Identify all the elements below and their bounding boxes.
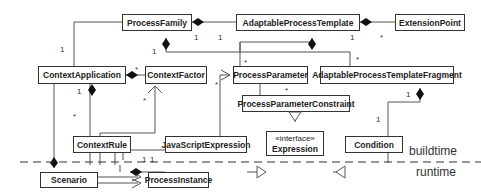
multiplicity: 1 <box>218 33 222 42</box>
class-scenario: Scenario <box>40 172 98 188</box>
multiplicity: 1 <box>150 155 154 164</box>
multiplicity: 1 <box>60 45 64 54</box>
class-process-parameter: ProcessParameter <box>233 66 308 84</box>
buildtime-label: buildtime <box>409 144 457 158</box>
multiplicity: 1 <box>406 90 410 99</box>
class-extension-point: ExtensionPoint <box>395 14 465 31</box>
class-condition: Condition <box>345 136 403 153</box>
multiplicity: * <box>73 112 76 121</box>
multiplicity: 1 <box>194 33 198 42</box>
multiplicity: 1 <box>142 155 146 164</box>
multiplicity: 1 <box>152 47 156 56</box>
class-adaptable-process-template: AdaptableProcessTemplate <box>236 14 360 31</box>
interface-expression: «interface»Expression <box>266 131 324 156</box>
multiplicity: * <box>143 96 146 105</box>
multiplicity: * <box>356 55 359 64</box>
multiplicity: * <box>244 58 247 67</box>
runtime-label: runtime <box>416 165 456 179</box>
class-context-application: ContextApplication <box>38 66 126 84</box>
class-process-family: ProcessFamily <box>122 14 192 31</box>
multiplicity: 1 <box>77 87 81 96</box>
class-adaptable-process-template-fragment: AdaptableProcessTemplateFragment <box>320 66 454 84</box>
class-context-factor: ContextFactor <box>145 66 207 84</box>
class-javascript-expression: JavaScriptExpression <box>165 136 247 153</box>
multiplicity: * <box>380 33 383 42</box>
multiplicity: * <box>135 65 138 74</box>
class-process-instance: ProcessInstance <box>148 172 209 188</box>
multiplicity: * <box>285 86 288 95</box>
multiplicity: * <box>215 80 218 89</box>
class-process-parameter-constraint: ProcessParameterConstraint <box>242 95 350 112</box>
class-context-rule: ContextRule <box>73 136 131 153</box>
multiplicity: 1 <box>350 33 354 42</box>
multiplicity: 1 <box>376 115 380 124</box>
